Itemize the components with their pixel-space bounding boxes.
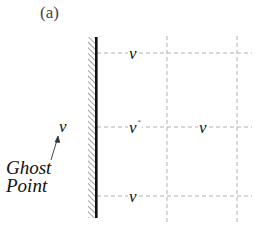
ghost-point-diagram: (a) v v* v v v Ghost Point [0,0,263,236]
node-label-middle-boundary: v* [128,119,142,136]
ghost-arrow-icon [51,136,60,160]
node-label-top: v [128,45,138,62]
horizontal-grid-lines [97,53,252,196]
node-symbol: v [199,118,207,137]
node-symbol: v [129,118,137,137]
node-symbol: v [129,44,137,63]
node-label-bottom: v [128,188,138,205]
wall-boundary-line [95,37,98,218]
node-symbol: v [129,187,137,206]
wall-hatching [88,37,96,218]
ghost-node-label: v [58,118,68,135]
ghost-annotation-line2: Point [6,176,47,195]
node-superscript: * [138,118,142,126]
node-label-middle-interior: v [198,119,208,136]
panel-label: (a) [40,4,59,21]
